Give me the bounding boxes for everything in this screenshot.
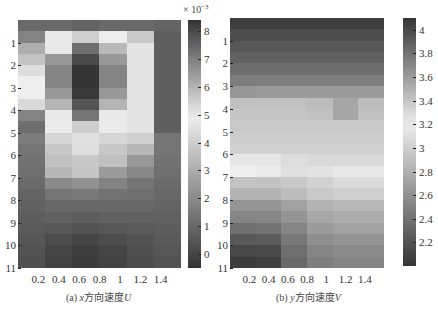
heatmap-cell bbox=[281, 234, 307, 245]
heatmap-cell bbox=[281, 41, 307, 52]
heatmap-cell bbox=[230, 132, 256, 143]
heatmap-cell bbox=[281, 223, 307, 234]
colorbar-tick-mark bbox=[413, 172, 416, 173]
heatmap-cell bbox=[281, 18, 307, 29]
heatmap-cell bbox=[307, 120, 333, 131]
colorbar-tick-mark bbox=[413, 53, 416, 54]
heatmap-cell bbox=[256, 29, 282, 40]
y-tick-label: 7 bbox=[214, 171, 228, 183]
caption-b-text: 方向速度 bbox=[295, 292, 335, 303]
heatmap-cell bbox=[256, 86, 282, 97]
heatmap-cell bbox=[307, 52, 333, 63]
heatmap-cell bbox=[256, 41, 282, 52]
colorbar-tick-label: 3.8 bbox=[419, 47, 433, 59]
heatmap-cell bbox=[230, 188, 256, 199]
heatmap-cell bbox=[358, 41, 384, 52]
colorbar-b bbox=[403, 18, 416, 266]
y-tick-mark bbox=[230, 268, 233, 269]
heatmap-cell bbox=[358, 18, 384, 29]
heatmap-cell bbox=[307, 63, 333, 74]
heatmap-cell bbox=[333, 143, 359, 154]
heatmap-cell bbox=[358, 143, 384, 154]
y-tick-mark bbox=[230, 177, 233, 178]
heatmap-cell bbox=[307, 132, 333, 143]
heatmap-v bbox=[230, 18, 384, 268]
heatmap-cell bbox=[333, 234, 359, 245]
colorbar-tick-mark bbox=[413, 242, 416, 243]
heatmap-cell bbox=[358, 177, 384, 188]
heatmap-cell bbox=[281, 200, 307, 211]
heatmap-cell bbox=[281, 29, 307, 40]
heatmap-cell bbox=[281, 120, 307, 131]
heatmap-cell bbox=[358, 109, 384, 120]
heatmap-cell bbox=[230, 154, 256, 165]
heatmap-cell bbox=[358, 75, 384, 86]
heatmap-cell bbox=[358, 211, 384, 222]
heatmap-cell bbox=[230, 166, 256, 177]
heatmap-cell bbox=[358, 98, 384, 109]
heatmap-cell bbox=[333, 132, 359, 143]
heatmap-cell bbox=[281, 188, 307, 199]
heatmap-cell bbox=[256, 18, 282, 29]
heatmap-cell bbox=[230, 177, 256, 188]
y-tick-label: 6 bbox=[214, 148, 228, 160]
y-tick-label: 9 bbox=[214, 217, 228, 229]
heatmap-cell bbox=[256, 75, 282, 86]
heatmap-cell bbox=[256, 120, 282, 131]
heatmap-cell bbox=[333, 245, 359, 256]
heatmap-cell bbox=[230, 200, 256, 211]
heatmap-cell bbox=[358, 154, 384, 165]
y-tick-label: 2 bbox=[214, 57, 228, 69]
heatmap-cell bbox=[333, 223, 359, 234]
heatmap-cell bbox=[256, 200, 282, 211]
y-tick-mark bbox=[230, 132, 233, 133]
heatmap-cell bbox=[256, 257, 282, 268]
panel-b-y-velocity: 1234567891011 0.20.40.60.811.21.4 43.83.… bbox=[0, 0, 438, 309]
heatmap-cell bbox=[256, 223, 282, 234]
heatmap-cell bbox=[307, 143, 333, 154]
heatmap-cell bbox=[307, 18, 333, 29]
heatmap-cell bbox=[358, 86, 384, 97]
heatmap-cell bbox=[358, 234, 384, 245]
heatmap-cell bbox=[256, 234, 282, 245]
y-tick-mark bbox=[230, 86, 233, 87]
heatmap-cell bbox=[333, 41, 359, 52]
y-tick-mark bbox=[230, 154, 233, 155]
heatmap-cell bbox=[256, 143, 282, 154]
colorbar-tick-mark bbox=[413, 124, 416, 125]
heatmap-cell bbox=[358, 63, 384, 74]
heatmap-cell bbox=[256, 52, 282, 63]
y-tick-label: 4 bbox=[214, 103, 228, 115]
heatmap-cell bbox=[358, 200, 384, 211]
heatmap-cell bbox=[307, 29, 333, 40]
heatmap-cell bbox=[333, 257, 359, 268]
colorbar-tick-label: 3.4 bbox=[419, 95, 433, 107]
heatmap-cell bbox=[230, 223, 256, 234]
heatmap-cell bbox=[281, 257, 307, 268]
x-tick-label: 1.4 bbox=[353, 273, 377, 285]
heatmap-cell bbox=[307, 234, 333, 245]
colorbar-tick-label: 4 bbox=[419, 24, 425, 36]
heatmap-cell bbox=[281, 154, 307, 165]
heatmap-cell bbox=[230, 86, 256, 97]
y-tick-mark bbox=[230, 223, 233, 224]
heatmap-cell bbox=[256, 211, 282, 222]
heatmap-cell bbox=[307, 154, 333, 165]
heatmap-cell bbox=[256, 177, 282, 188]
heatmap-cell bbox=[307, 75, 333, 86]
colorbar-tick-mark bbox=[413, 101, 416, 102]
heatmap-cell bbox=[333, 98, 359, 109]
heatmap-cell bbox=[230, 257, 256, 268]
heatmap-cell bbox=[230, 29, 256, 40]
heatmap-cell bbox=[230, 98, 256, 109]
heatmap-cell bbox=[307, 200, 333, 211]
heatmap-cell bbox=[281, 143, 307, 154]
heatmap-cell bbox=[333, 154, 359, 165]
heatmap-cell bbox=[333, 52, 359, 63]
heatmap-cell bbox=[358, 257, 384, 268]
heatmap-cell bbox=[256, 63, 282, 74]
heatmap-cell bbox=[358, 120, 384, 131]
heatmap-cell bbox=[230, 234, 256, 245]
y-tick-label: 5 bbox=[214, 126, 228, 138]
heatmap-cell bbox=[281, 98, 307, 109]
